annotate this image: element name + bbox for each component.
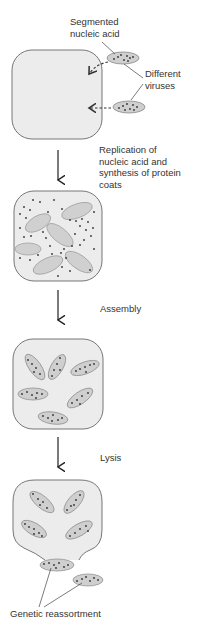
leader-reassortment-1	[39, 568, 51, 607]
label-lysis: Lysis	[100, 452, 121, 464]
host-cell-assembly	[13, 339, 103, 429]
label-different-viruses: Different viruses	[145, 68, 181, 91]
leader-virus-1	[124, 64, 143, 78]
virus-1	[107, 52, 139, 64]
label-replication: Replication of nucleic acid and synthesi…	[99, 144, 181, 190]
host-cell-infection	[12, 50, 102, 139]
label-segmented-nucleic-acid: Segmented nucleic acid	[70, 16, 120, 39]
label-assembly: Assembly	[100, 303, 141, 315]
host-cell-lysis	[13, 480, 103, 586]
leader-segmented	[102, 42, 115, 54]
leader-reassortment-2	[44, 583, 82, 607]
virus-2	[113, 101, 145, 113]
host-cell-replication	[14, 191, 102, 281]
label-genetic-reassortment: Genetic reassortment	[10, 608, 101, 620]
leader-virus-2	[131, 84, 143, 100]
